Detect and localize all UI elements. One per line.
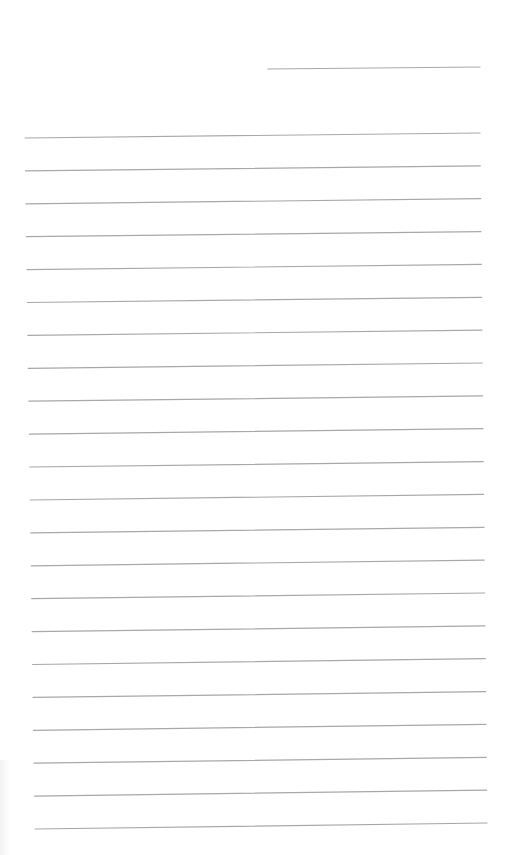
writing-rule-line bbox=[31, 560, 484, 566]
writing-rule-line bbox=[30, 462, 484, 467]
writing-rule-line bbox=[28, 330, 482, 335]
writing-rule-line bbox=[31, 527, 484, 533]
writing-rule-line bbox=[32, 593, 485, 599]
writing-rule-line bbox=[28, 363, 482, 368]
writing-rule-line bbox=[35, 790, 487, 796]
writing-rule-line bbox=[26, 199, 481, 204]
writing-rule-line bbox=[25, 133, 480, 138]
writing-rule-line bbox=[29, 429, 483, 434]
writing-rule-line bbox=[34, 724, 486, 730]
writing-rule-line bbox=[34, 757, 486, 763]
lined-paper-page bbox=[0, 0, 509, 855]
writing-rule-line bbox=[29, 396, 483, 401]
header-name-line bbox=[268, 67, 480, 69]
writing-rule-line bbox=[30, 494, 484, 500]
writing-rule-line bbox=[27, 264, 481, 269]
writing-rule-line bbox=[27, 297, 481, 302]
ruled-lines bbox=[0, 0, 509, 855]
writing-rule-line bbox=[33, 692, 486, 698]
writing-rule-line bbox=[32, 626, 485, 632]
writing-rule-line bbox=[33, 659, 486, 665]
writing-rules-group bbox=[25, 133, 487, 829]
writing-rule-line bbox=[35, 823, 487, 829]
writing-rule-line bbox=[26, 166, 481, 171]
writing-rule-line bbox=[26, 232, 481, 237]
